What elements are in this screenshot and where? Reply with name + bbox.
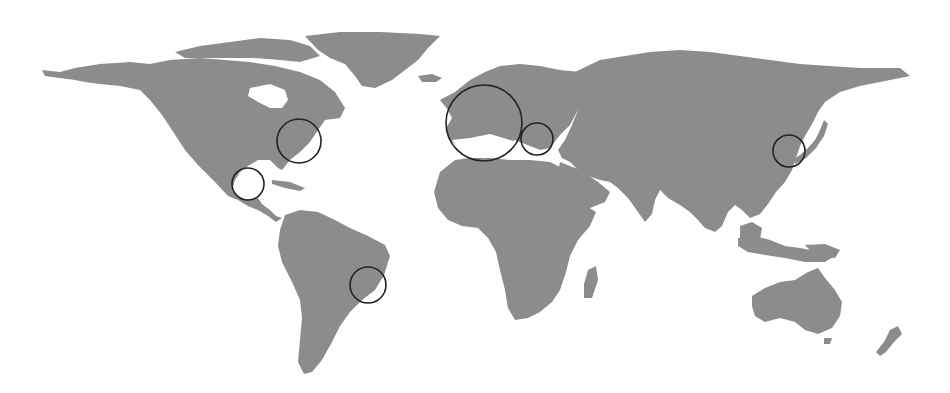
landmass-australia: [752, 268, 842, 334]
landmass-madagascar: [584, 266, 598, 298]
world-map-canvas: [0, 0, 950, 393]
landmass-caribbean: [272, 180, 305, 191]
landmass-south-america: [278, 210, 390, 374]
marker-circle-gulf-of-mexico: [232, 168, 264, 200]
landmass-north-america: [42, 58, 345, 222]
landmass-new-zealand: [876, 326, 902, 356]
landmass-asia: [558, 50, 910, 232]
world-map: [0, 0, 950, 393]
landmass-tasmania: [824, 338, 832, 344]
landmass-greenland: [305, 32, 440, 88]
landmass-iceland: [418, 74, 442, 82]
